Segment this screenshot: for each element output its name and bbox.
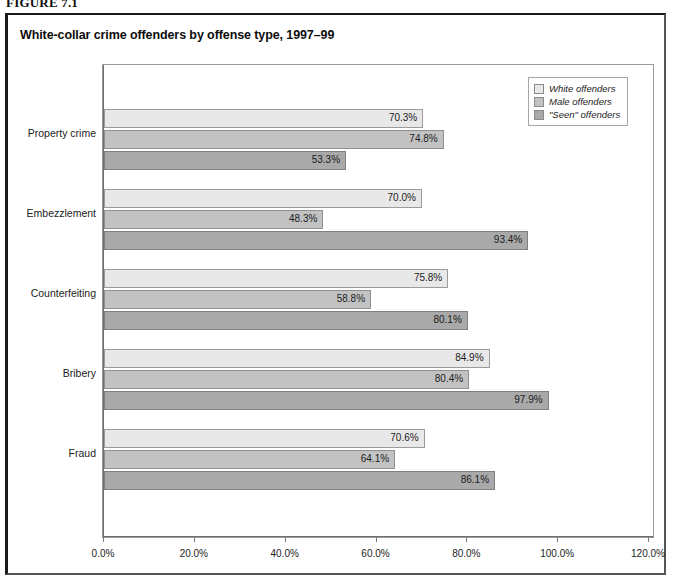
bar-value-label: 53.3%	[304, 154, 340, 165]
x-axis-tick-mark	[557, 537, 558, 542]
figure-panel: White-collar crime offenders by offense …	[5, 13, 666, 575]
legend-swatch-icon	[534, 110, 544, 120]
bar-row: 84.9%	[104, 349, 653, 368]
bar-row: 80.1%	[104, 311, 653, 330]
bar[interactable]	[104, 471, 495, 490]
bar-value-label: 64.1%	[353, 453, 389, 464]
chart-title: White-collar crime offenders by offense …	[20, 28, 334, 42]
legend-item[interactable]: Male offenders	[534, 95, 620, 108]
bar-value-label: 75.8%	[406, 272, 442, 283]
bar[interactable]	[104, 269, 448, 288]
bar-row: 97.9%	[104, 391, 653, 410]
bar[interactable]	[104, 429, 425, 448]
bar-row: 70.6%	[104, 429, 653, 448]
bar-row: 70.0%	[104, 189, 653, 208]
bar-value-label: 70.6%	[383, 432, 419, 443]
bar-row: 74.8%	[104, 130, 653, 149]
x-axis-tick-mark	[103, 537, 104, 542]
bar-value-label: 80.1%	[426, 314, 462, 325]
bar[interactable]	[104, 450, 395, 469]
legend-label: White offenders	[549, 83, 616, 94]
x-axis-tick-label: 0.0%	[92, 548, 115, 559]
bar-row: 86.1%	[104, 471, 653, 490]
x-axis-spine	[103, 536, 653, 537]
category-axis-label: Embezzlement	[0, 207, 96, 219]
legend-swatch-icon	[534, 97, 544, 107]
bar-value-label: 74.8%	[402, 133, 438, 144]
legend-item[interactable]: White offenders	[534, 82, 620, 95]
x-axis-tick-label: 60.0%	[361, 548, 389, 559]
bar[interactable]	[104, 311, 468, 330]
legend-swatch-icon	[534, 84, 544, 94]
bar[interactable]	[104, 130, 444, 149]
x-axis-tick-mark	[376, 537, 377, 542]
bar-value-label: 80.4%	[427, 373, 463, 384]
legend-label: "Seen" offenders	[549, 109, 620, 120]
bar-value-label: 84.9%	[448, 352, 484, 363]
bar-group: Fraud70.6%64.1%86.1%	[104, 429, 653, 492]
category-axis-label: Property crime	[0, 127, 96, 139]
bar[interactable]	[104, 349, 490, 368]
bar[interactable]	[104, 189, 422, 208]
x-axis-tick-mark	[194, 537, 195, 542]
bar-value-label: 58.8%	[329, 293, 365, 304]
x-axis-tick-mark	[285, 537, 286, 542]
bar[interactable]	[104, 231, 528, 250]
bar-group: Bribery84.9%80.4%97.9%	[104, 349, 653, 412]
bar-row: 75.8%	[104, 269, 653, 288]
bar[interactable]	[104, 370, 469, 389]
category-axis-label: Counterfeiting	[0, 287, 96, 299]
bar-row: 93.4%	[104, 231, 653, 250]
bar-row: 80.4%	[104, 370, 653, 389]
bar-value-label: 86.1%	[453, 474, 489, 485]
legend-item[interactable]: "Seen" offenders	[534, 108, 620, 121]
plot-area: Property crime70.3%74.8%53.3%Embezzlemen…	[102, 64, 654, 538]
figure-number-label: FIGURE 7.1	[6, 0, 78, 11]
category-axis-label: Bribery	[0, 367, 96, 379]
bar-value-label: 93.4%	[486, 234, 522, 245]
bar-row: 53.3%	[104, 151, 653, 170]
x-axis-tick-label: 80.0%	[452, 548, 480, 559]
bar-value-label: 97.9%	[507, 394, 543, 405]
x-axis-tick-label: 40.0%	[270, 548, 298, 559]
legend-label: Male offenders	[549, 96, 612, 107]
bar-value-label: 70.0%	[380, 192, 416, 203]
bar-group: Counterfeiting75.8%58.8%80.1%	[104, 269, 653, 332]
bar[interactable]	[104, 109, 423, 128]
bar-group: Embezzlement70.0%48.3%93.4%	[104, 189, 653, 252]
x-axis-tick-label: 20.0%	[180, 548, 208, 559]
x-axis-tick-mark	[648, 537, 649, 542]
bar-row: 58.8%	[104, 290, 653, 309]
category-axis-label: Fraud	[0, 447, 96, 459]
x-axis-tick-label: 120.0%	[631, 548, 665, 559]
x-axis-tick-mark	[466, 537, 467, 542]
x-axis-tick-label: 100.0%	[540, 548, 574, 559]
bar-row: 48.3%	[104, 210, 653, 229]
bar-value-label: 48.3%	[281, 213, 317, 224]
bar-row: 64.1%	[104, 450, 653, 469]
bar[interactable]	[104, 391, 549, 410]
bar-value-label: 70.3%	[381, 112, 417, 123]
chart-legend: White offendersMale offenders"Seen" offe…	[528, 77, 628, 126]
